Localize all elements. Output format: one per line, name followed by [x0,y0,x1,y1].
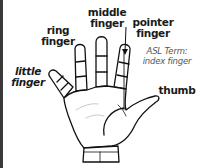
asl-term-line2: index finger [139,56,195,66]
label-pointer-finger: pointer finger [129,17,177,39]
asl-term-note: ASL Term: index finger [139,46,195,66]
label-ring-line2: finger [40,36,76,47]
label-middle-finger: middle finger [84,7,130,29]
label-pointer-line2: finger [129,28,177,39]
hand-diagram: middle finger ring finger pointer finger… [0,0,209,168]
asl-term-line1: ASL Term: [139,46,195,56]
label-little-line2: finger [10,77,46,88]
label-ring-finger: ring finger [40,25,76,47]
label-little-finger: little finger [10,66,46,88]
label-thumb: thumb [157,85,197,96]
label-middle-line2: finger [84,18,130,29]
